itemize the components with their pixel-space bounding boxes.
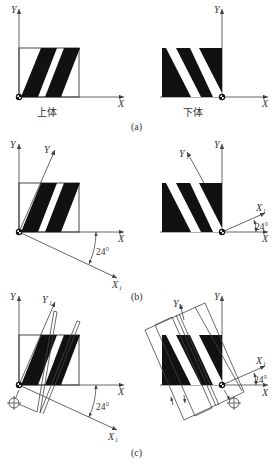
- panel-c-right: Y X Y 1 X 1 24°: [145, 291, 269, 420]
- y-axis-label: Y: [214, 291, 221, 302]
- panel-b: Y X Y 1 X 1 24° Y X Y 1 X 1 24°: [10, 139, 269, 303]
- x1-axis-label: X: [107, 431, 115, 442]
- x-axis-label: X: [117, 233, 125, 244]
- panel-a: Y X 上体 Y X 下体 (a): [11, 4, 269, 133]
- y-axis-label: Y: [11, 4, 18, 15]
- caption-b: (b): [131, 291, 143, 303]
- y1-subscript: 1: [186, 154, 189, 160]
- x-axis-label: X: [117, 98, 125, 109]
- x-axis-label: X: [261, 98, 269, 109]
- y-axis-label: Y: [10, 291, 17, 302]
- lower-body-label: 下体: [183, 107, 203, 118]
- y1-axis: [187, 152, 204, 183]
- x-axis-label: X: [261, 387, 269, 398]
- caption-c: (c): [131, 447, 142, 459]
- x1-subscript: 1: [119, 285, 122, 291]
- panel-b-right: Y X Y 1 X 1 24°: [160, 139, 269, 244]
- x1-subscript: 1: [263, 208, 266, 214]
- x1-subscript: 1: [115, 437, 118, 443]
- angle-arc: [89, 385, 96, 417]
- x1-axis-label: X: [255, 355, 263, 366]
- y1-axis-label: Y: [179, 148, 186, 159]
- panel-a-upper-body: Y X 上体: [11, 4, 125, 118]
- angle-label: 24°: [254, 375, 268, 385]
- angle-label: 24°: [96, 247, 110, 257]
- x1-axis-label: X: [111, 279, 119, 290]
- panel-a-lower-body: Y X 下体: [160, 4, 269, 118]
- y1-subscript: 1: [180, 304, 183, 310]
- angle-arc: [89, 232, 96, 264]
- caption-a: (a): [131, 121, 142, 133]
- y1-subscript: 1: [51, 150, 54, 156]
- y-axis-label: Y: [10, 139, 17, 150]
- y1-axis-label: Y: [42, 294, 49, 305]
- y1-subscript: 1: [49, 300, 52, 306]
- entry-direction: [224, 390, 230, 400]
- y-axis-label: Y: [214, 4, 221, 15]
- panel-c-left: Y X Y 1 X 1 24°: [7, 291, 125, 443]
- panel-b-left: Y X Y 1 X 1 24°: [10, 139, 125, 291]
- x-axis-label: X: [117, 386, 125, 397]
- x-axis-label: X: [261, 233, 269, 244]
- angle-label: 24°: [96, 402, 110, 412]
- panel-c: Y X Y 1 X 1 24°: [7, 291, 269, 459]
- y1-axis-label: Y: [173, 298, 180, 309]
- upper-body-label: 上体: [37, 107, 57, 118]
- angle-label: 24°: [255, 222, 269, 232]
- y1-axis-label: Y: [44, 144, 51, 155]
- direction-arrow: [171, 397, 173, 405]
- direction-arrow: [184, 395, 185, 403]
- y-axis-label: Y: [214, 139, 221, 150]
- x1-axis-label: X: [255, 202, 263, 213]
- x1-subscript: 1: [263, 361, 266, 367]
- coordinate-diagram: Y X 上体 Y X 下体 (a): [0, 0, 275, 464]
